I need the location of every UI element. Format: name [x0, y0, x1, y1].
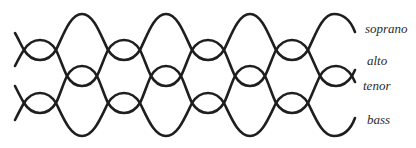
bass-label: bass	[367, 113, 390, 126]
voice-lines-canvas	[0, 0, 416, 148]
tenor-label: tenor	[363, 79, 390, 92]
bass-line	[15, 93, 355, 136]
alto-label: alto	[367, 54, 387, 67]
voice-crossing-diagram: soprano alto tenor bass	[0, 0, 416, 148]
soprano-line	[15, 14, 355, 60]
soprano-label: soprano	[365, 22, 408, 35]
